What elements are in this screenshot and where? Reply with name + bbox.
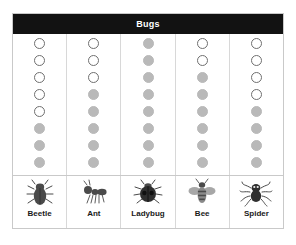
- beetle-icon: [23, 178, 57, 208]
- dot-open[interactable]: [251, 38, 262, 49]
- legend-cell-beetle[interactable]: Beetle: [13, 176, 67, 228]
- dot-filled[interactable]: [88, 123, 99, 134]
- dot-column-ladybug: [121, 34, 175, 175]
- ladybug-icon: [131, 178, 165, 208]
- dot-filled[interactable]: [143, 106, 154, 117]
- legend-cell-spider[interactable]: Spider: [230, 176, 283, 228]
- legend-label: Spider: [244, 210, 269, 218]
- dot-open[interactable]: [88, 72, 99, 83]
- dot-filled[interactable]: [88, 106, 99, 117]
- dot-filled[interactable]: [143, 140, 154, 151]
- dot-open[interactable]: [251, 72, 262, 83]
- dot-open[interactable]: [88, 55, 99, 66]
- dot-column-beetle: [13, 34, 67, 175]
- dot-filled[interactable]: [143, 55, 154, 66]
- page-title: Bugs: [136, 20, 160, 29]
- legend-cell-ladybug[interactable]: Ladybug: [121, 176, 175, 228]
- dot-column-bee: [176, 34, 230, 175]
- legend-label: Beetle: [28, 210, 52, 218]
- dot-open[interactable]: [251, 89, 262, 100]
- dot-filled[interactable]: [143, 123, 154, 134]
- dot-filled[interactable]: [197, 89, 208, 100]
- dot-open[interactable]: [197, 38, 208, 49]
- dot-filled[interactable]: [143, 89, 154, 100]
- ant-icon: [77, 178, 111, 208]
- legend-cell-ant[interactable]: Ant: [67, 176, 121, 228]
- dot-open[interactable]: [88, 38, 99, 49]
- dot-filled[interactable]: [251, 106, 262, 117]
- dot-filled[interactable]: [197, 140, 208, 151]
- dot-filled[interactable]: [143, 157, 154, 168]
- dot-open[interactable]: [34, 55, 45, 66]
- legend-label: Bee: [195, 210, 210, 218]
- dot-filled[interactable]: [197, 123, 208, 134]
- dot-filled[interactable]: [197, 106, 208, 117]
- dot-filled[interactable]: [88, 140, 99, 151]
- dot-filled[interactable]: [34, 123, 45, 134]
- dot-filled[interactable]: [34, 140, 45, 151]
- dot-open[interactable]: [34, 38, 45, 49]
- dot-column-spider: [230, 34, 283, 175]
- dot-filled[interactable]: [197, 157, 208, 168]
- dot-filled[interactable]: [251, 123, 262, 134]
- dot-filled[interactable]: [251, 140, 262, 151]
- dot-filled[interactable]: [34, 157, 45, 168]
- dot-filled[interactable]: [143, 72, 154, 83]
- legend-cell-bee[interactable]: Bee: [176, 176, 230, 228]
- dot-filled[interactable]: [88, 89, 99, 100]
- dot-open[interactable]: [34, 72, 45, 83]
- plot-area: [13, 34, 283, 176]
- dot-filled[interactable]: [88, 157, 99, 168]
- bee-icon: [185, 178, 219, 208]
- dot-open[interactable]: [197, 55, 208, 66]
- dot-open[interactable]: [34, 89, 45, 100]
- dot-column-ant: [67, 34, 121, 175]
- dot-open[interactable]: [34, 106, 45, 117]
- pictograph-chart: Bugs Beetle Ant: [12, 13, 284, 229]
- chart-title-bar: Bugs: [13, 14, 283, 34]
- legend-label: Ant: [87, 210, 100, 218]
- legend-row: Beetle Ant Ladybug: [13, 176, 283, 228]
- dot-filled[interactable]: [197, 72, 208, 83]
- dot-filled[interactable]: [251, 157, 262, 168]
- legend-label: Ladybug: [131, 210, 164, 218]
- dot-filled[interactable]: [143, 38, 154, 49]
- spider-icon: [239, 178, 273, 208]
- dot-open[interactable]: [251, 55, 262, 66]
